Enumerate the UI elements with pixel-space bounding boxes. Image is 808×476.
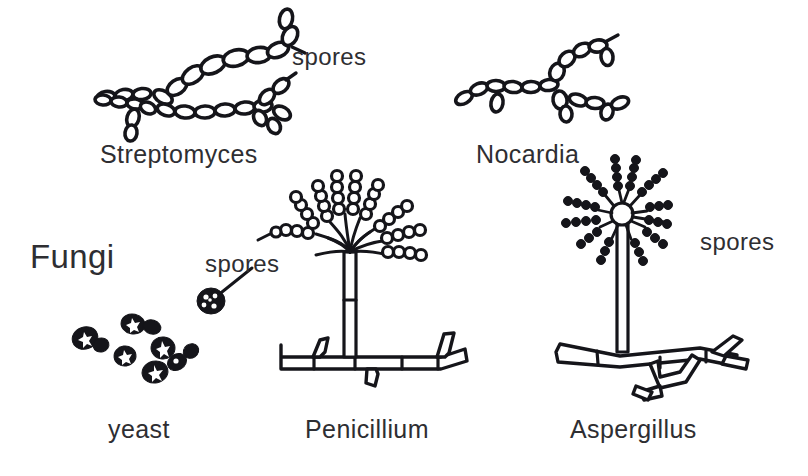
penicillium-conidiophore-stalk [344,252,356,357]
annotation-spores-yeast: spores [205,250,279,277]
annotation-spores-aspergillus: spores [700,228,774,255]
group-label-fungi: Fungi [30,238,115,275]
aspergillus-conidiophore-stalk [617,218,628,352]
organism-label-penicillium: Penicillium [305,415,429,443]
organism-label-streptomyces: Streptomyces [100,140,258,168]
microbiology-figure: spores Streptomyces Nocardia [0,0,808,476]
diagram-canvas: spores Streptomyces Nocardia [0,0,808,476]
organism-label-aspergillus: Aspergillus [570,415,697,443]
annotation-spores-streptomyces: spores [292,43,366,70]
organism-label-nocardia: Nocardia [476,140,579,168]
organism-label-yeast: yeast [108,415,170,443]
